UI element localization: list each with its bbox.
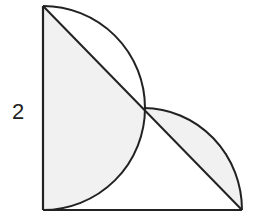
shaded-region-left bbox=[43, 6, 144, 210]
geometry-figure: 2 bbox=[0, 0, 254, 220]
side-length-label: 2 bbox=[12, 99, 24, 124]
